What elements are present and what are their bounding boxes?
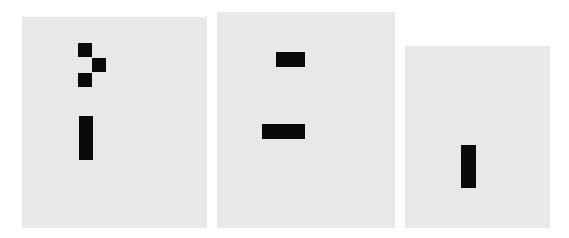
panel-1 <box>22 17 207 228</box>
square-block <box>78 43 92 57</box>
panel-3 <box>405 46 550 228</box>
vertical-bar-block <box>461 145 476 188</box>
horizontal-bar-block <box>262 124 305 139</box>
vertical-bar-block <box>79 116 93 160</box>
square-block <box>78 73 92 87</box>
panel-2 <box>217 12 395 228</box>
figure-canvas <box>0 0 569 238</box>
horizontal-bar-block <box>276 52 305 67</box>
square-block <box>92 58 106 72</box>
